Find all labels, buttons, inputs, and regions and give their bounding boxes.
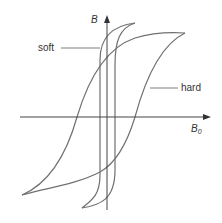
hard-curve-label: hard [181,83,201,93]
hard-loop-upper-branch [22,33,185,195]
soft-curve-label: soft [38,43,54,53]
y-axis-arrowhead [104,15,110,23]
y-axis-label-text: B [91,14,98,25]
hard-loop-lower-branch [22,33,185,195]
soft-loop-lower-branch [82,23,135,208]
y-axis-label: B [91,15,98,25]
soft-curve-label-text: soft [38,42,54,53]
hard-curve-label-text: hard [181,82,201,93]
x-axis-arrowhead [203,114,211,120]
soft-loop-upper-branch [82,23,135,208]
x-axis-label-subscript: 0 [198,128,202,135]
hysteresis-diagram [0,0,222,223]
x-axis-label: B0 [191,124,202,135]
x-axis-label-base: B [191,123,198,134]
